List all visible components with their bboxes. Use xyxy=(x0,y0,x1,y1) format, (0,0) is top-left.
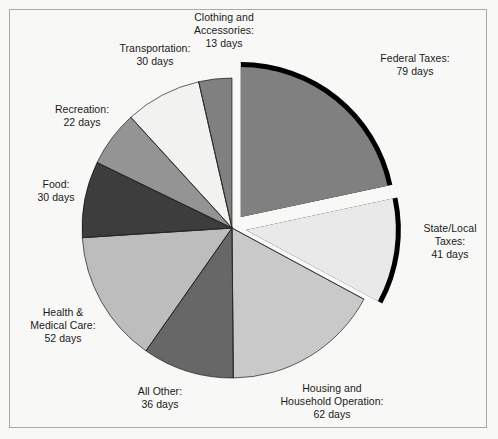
pie-label-name: Clothing and Accessories: xyxy=(172,11,276,37)
pie-label-value: 36 days xyxy=(110,398,210,411)
pie-label-value: 79 days xyxy=(355,65,475,78)
pie-label-name: State/Local Taxes: xyxy=(408,222,492,248)
pie-label-health-medical-care: Health & Medical Care:52 days xyxy=(8,306,118,346)
pie-label-food: Food:30 days xyxy=(12,178,100,204)
pie-label-value: 30 days xyxy=(12,191,100,204)
pie-label-clothing-and-accessories: Clothing and Accessories:13 days xyxy=(172,11,276,51)
pie-slice-federal-taxes[interactable] xyxy=(241,67,388,217)
pie-label-value: 22 days xyxy=(30,116,134,129)
pie-label-name: Federal Taxes: xyxy=(355,52,475,65)
pie-label-recreation: Recreation:22 days xyxy=(30,103,134,129)
pie-label-name: Food: xyxy=(12,178,100,191)
pie-label-value: 62 days xyxy=(258,408,406,421)
pie-label-name: Health & Medical Care: xyxy=(8,306,118,332)
pie-label-name: Recreation: xyxy=(30,103,134,116)
pie-label-federal-taxes: Federal Taxes:79 days xyxy=(355,52,475,78)
pie-label-value: 41 days xyxy=(408,248,492,261)
pie-label-state-local-taxes: State/Local Taxes:41 days xyxy=(408,222,492,262)
pie-label-value: 30 days xyxy=(98,55,212,68)
pie-label-name: All Other: xyxy=(110,385,210,398)
chart-page: Federal Taxes:79 daysState/Local Taxes:4… xyxy=(0,0,498,439)
pie-label-value: 13 days xyxy=(172,37,276,50)
pie-label-housing-and-household-operation: Housing and Household Operation:62 days xyxy=(258,382,406,422)
pie-label-all-other: All Other:36 days xyxy=(110,385,210,411)
pie-label-name: Housing and Household Operation: xyxy=(258,382,406,408)
pie-label-value: 52 days xyxy=(8,332,118,345)
